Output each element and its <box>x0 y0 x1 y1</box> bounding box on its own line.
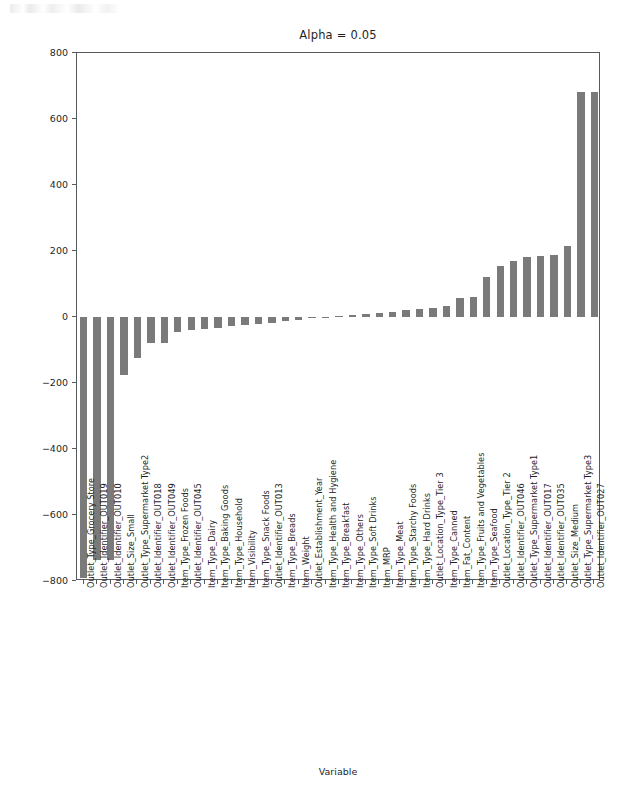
x-tick-label: Item_Type_Baking Goods <box>220 485 230 588</box>
bar <box>537 256 544 317</box>
x-tick-label: Outlet_Identifier_OUT013 <box>274 483 284 588</box>
x-tick-mark <box>553 580 554 584</box>
bar <box>255 317 262 324</box>
x-tick-mark <box>190 580 191 584</box>
bar <box>497 266 504 317</box>
y-tick-label: −400 <box>22 443 68 454</box>
bar <box>376 313 383 317</box>
bar <box>389 312 396 317</box>
x-tick-label: Outlet_Establishment_Year <box>314 478 324 588</box>
x-tick-mark <box>378 580 379 584</box>
bar <box>416 309 423 317</box>
x-tick-label: Outlet_Identifier_OUT017 <box>543 483 553 588</box>
bar <box>188 317 195 330</box>
x-tick-mark <box>580 580 581 584</box>
x-tick-label: Item_Type_Meat <box>395 521 405 588</box>
x-tick-mark <box>163 580 164 584</box>
x-tick-mark <box>217 580 218 584</box>
bar <box>483 277 490 317</box>
x-tick-label: Item_Visibility <box>247 530 257 588</box>
x-tick-mark <box>244 580 245 584</box>
x-tick-label: Item_Type_Hard Drinks <box>422 493 432 588</box>
x-tick-mark <box>177 580 178 584</box>
y-tick-label: −800 <box>22 575 68 586</box>
x-tick-label: Item_Type_Snack Foods <box>261 490 271 588</box>
x-tick-label: Item_Type_Others <box>355 514 365 588</box>
x-tick-mark <box>96 580 97 584</box>
x-tick-label: Outlet_Identifier_OUT035 <box>556 483 566 588</box>
bar <box>402 310 409 317</box>
bar <box>470 297 477 317</box>
bar <box>268 317 275 323</box>
bar <box>349 315 356 317</box>
x-tick-mark <box>110 580 111 584</box>
x-tick-label: Item_Fat_Content <box>462 516 472 588</box>
x-tick-label: Outlet_Type_Grocery Store <box>86 478 96 588</box>
x-tick-label: Outlet_Identifier_OUT049 <box>167 483 177 588</box>
x-tick-label: Outlet_Identifier_OUT045 <box>193 483 203 588</box>
x-tick-label: Item_Weight <box>301 536 311 588</box>
x-tick-mark <box>83 580 84 584</box>
x-tick-label: Outlet_Identifier_OUT010 <box>113 483 123 588</box>
bar <box>147 317 154 343</box>
bar <box>510 261 517 317</box>
x-tick-label: Item_Type_Canned <box>449 510 459 588</box>
x-tick-mark <box>445 580 446 584</box>
x-tick-mark <box>204 580 205 584</box>
x-tick-mark <box>526 580 527 584</box>
x-tick-mark <box>150 580 151 584</box>
bar <box>443 306 450 317</box>
x-tick-mark <box>257 580 258 584</box>
bar <box>201 317 208 329</box>
x-tick-label: Item_Type_Dairy <box>207 520 217 588</box>
x-tick-label: Outlet_Identifier_OUT046 <box>516 483 526 588</box>
x-tick-label: Outlet_Size_Medium <box>570 504 580 588</box>
y-tick-label: 400 <box>22 179 68 190</box>
x-tick-label: Item_Type_Starchy Foods <box>408 484 418 588</box>
bar <box>214 317 221 328</box>
x-tick-label: Outlet_Location_Type_Tier 3 <box>435 472 445 588</box>
y-tick-label: 200 <box>22 245 68 256</box>
x-tick-mark <box>472 580 473 584</box>
x-tick-label: Item_Type_Breads <box>287 513 297 588</box>
bar <box>282 317 289 321</box>
bar <box>335 316 342 317</box>
x-tick-label: Outlet_Type_Supermarket Type2 <box>140 455 150 588</box>
y-tick-label: 0 <box>22 311 68 322</box>
x-tick-mark <box>338 580 339 584</box>
x-axis-label: Variable <box>76 766 600 777</box>
bar <box>228 317 235 326</box>
y-tick-label: −600 <box>22 509 68 520</box>
scan-artifact <box>10 4 120 13</box>
x-tick-label: Outlet_Type_Supermarket Type3 <box>583 455 593 588</box>
x-tick-mark <box>566 580 567 584</box>
x-tick-mark <box>271 580 272 584</box>
y-tick-label: 800 <box>22 47 68 58</box>
x-tick-mark <box>365 580 366 584</box>
x-tick-mark <box>540 580 541 584</box>
x-tick-label: Outlet_Identifier_OUT019 <box>99 483 109 588</box>
x-tick-label: Item_Type_Breakfast <box>341 502 351 588</box>
x-tick-mark <box>298 580 299 584</box>
bar <box>241 317 248 325</box>
x-tick-mark <box>432 580 433 584</box>
bar <box>564 246 571 317</box>
x-tick-mark <box>136 580 137 584</box>
x-tick-label: Item_Type_Frozen Foods <box>180 488 190 588</box>
x-tick-label: Outlet_Size_Small <box>126 514 136 588</box>
x-tick-mark <box>325 580 326 584</box>
x-tick-label: Outlet_Location_Type_Tier 2 <box>502 472 512 588</box>
bar <box>523 257 530 317</box>
x-tick-mark <box>392 580 393 584</box>
x-tick-label: Outlet_Identifier_OUT018 <box>153 483 163 588</box>
bar <box>429 308 436 317</box>
bar <box>550 255 557 317</box>
x-tick-mark <box>231 580 232 584</box>
x-tick-label: Item_Type_Seafood <box>489 508 499 588</box>
bar <box>134 317 141 358</box>
bar <box>174 317 181 332</box>
bar <box>295 317 302 320</box>
x-tick-mark <box>351 580 352 584</box>
bar <box>322 317 329 318</box>
y-tick-label: −200 <box>22 377 68 388</box>
